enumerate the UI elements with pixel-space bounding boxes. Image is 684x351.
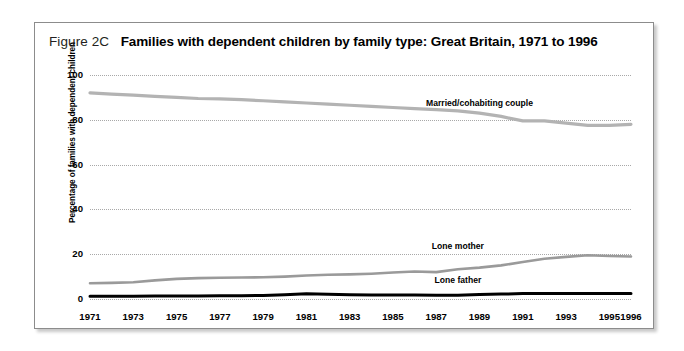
x-tick-label: 1993: [555, 311, 576, 322]
x-tick-label: 1981: [296, 311, 317, 322]
series-label: Lone father: [434, 275, 481, 285]
series-line: [90, 293, 631, 296]
series-lines: [35, 23, 655, 330]
figure-card: Figure 2C Families with dependent childr…: [34, 22, 654, 329]
series-line: [90, 255, 631, 283]
x-tick-label: 1989: [469, 311, 490, 322]
x-tick-label: 1973: [123, 311, 144, 322]
series-line: [90, 93, 631, 125]
x-tick-label: 1975: [166, 311, 187, 322]
x-tick-label: 1995: [599, 311, 620, 322]
series-label: Married/cohabiting couple: [426, 98, 533, 108]
chart-plot-area: Percentage of families with dependent ch…: [35, 23, 653, 328]
x-tick-label: 1983: [339, 311, 360, 322]
x-tick-label: 1977: [209, 311, 230, 322]
x-tick-label: 1979: [252, 311, 273, 322]
series-label: Lone mother: [432, 241, 484, 251]
x-tick-label: 1991: [512, 311, 533, 322]
x-tick-label: 1987: [426, 311, 447, 322]
x-tick-label: 1971: [79, 311, 100, 322]
x-tick-label: 1996: [620, 311, 641, 322]
x-tick-label: 1985: [382, 311, 403, 322]
